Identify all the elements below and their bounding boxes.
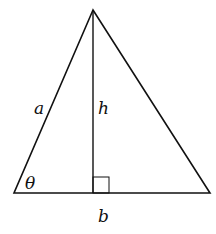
label-h: h: [98, 98, 109, 118]
label-theta: θ: [25, 173, 35, 193]
label-a: a: [34, 98, 44, 118]
label-b: b: [98, 206, 109, 226]
right-angle-marker: [93, 177, 109, 193]
triangle-diagram: a h θ b: [0, 0, 216, 234]
